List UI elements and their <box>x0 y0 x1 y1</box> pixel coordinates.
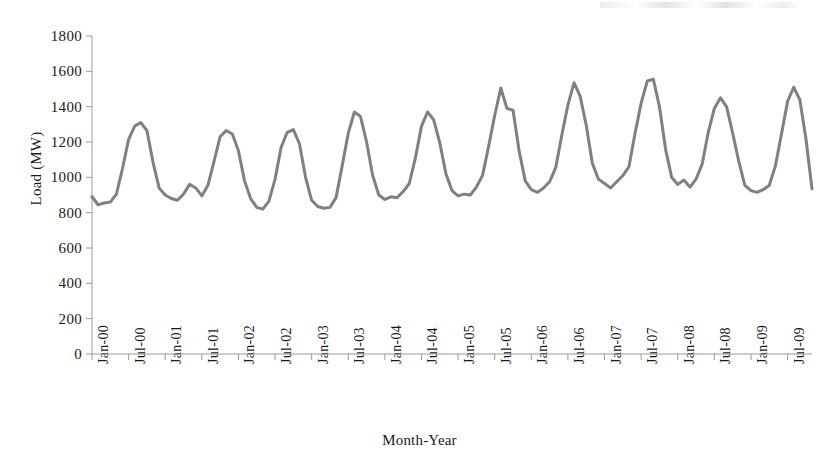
tick-marks <box>86 36 788 360</box>
load-forecast-line-chart: Load (MW) Month-Year 0200400600800100012… <box>0 0 839 469</box>
plot-area <box>0 0 839 469</box>
load-series-line <box>92 79 812 209</box>
